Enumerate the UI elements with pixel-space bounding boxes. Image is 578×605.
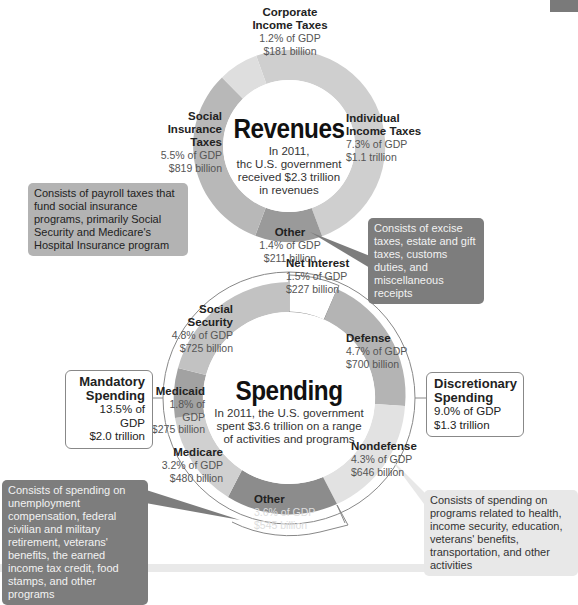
mandatory-title-line: Mandatory <box>73 375 145 389</box>
label-name-line: Social <box>140 110 222 123</box>
label-amount: $181 billion <box>240 45 340 58</box>
spending-center: Spending In 2011, the U.S. government sp… <box>214 376 364 446</box>
spending-subtitle-line: spent $3.6 trillion on a range <box>214 420 364 433</box>
discretionary-title-line: Spending <box>434 391 516 405</box>
label-name-line: Defense <box>346 332 426 345</box>
label-gdp: 3.6% of GDP <box>254 506 334 519</box>
spending-title: Spending <box>222 376 357 407</box>
revenues-center: Revenues In 2011, thc U.S. government re… <box>224 114 354 197</box>
label-amount: $646 billion <box>351 466 431 479</box>
label-gdp: 4.8% of GDP <box>170 329 233 342</box>
discretionary-gdp: 9.0% of GDP <box>434 405 516 419</box>
label-amount: $1.1 trillion <box>346 151 436 164</box>
label-net-interest: Net Interest 1.5% of GDP $227 billion <box>286 257 376 295</box>
label-gdp: 1.4% of GDP <box>255 239 325 252</box>
label-defense: Defense 4.7% of GDP $700 billion <box>346 332 426 370</box>
callout-spending-other: Consists of spending on unemployment com… <box>2 480 148 605</box>
mandatory-amount: $2.0 trillion <box>73 430 145 444</box>
label-name-line: Medicaid <box>150 385 205 398</box>
label-social-insurance-taxes: Social Insurance Taxes 5.5% of GDP $819 … <box>140 110 222 174</box>
label-name-line: Other <box>254 493 334 506</box>
label-name-line: Net Interest <box>286 257 376 270</box>
label-name-line: Income Taxes <box>346 125 436 138</box>
label-corporate-income-taxes: Corporate Income Taxes 1.2% of GDP $181 … <box>240 6 340 57</box>
label-amount: $545 billion <box>254 519 334 532</box>
label-medicaid: Medicaid 1.8% of GDP $275 billion <box>150 385 205 436</box>
mandatory-title-line: Spending <box>73 389 145 403</box>
label-amount: $227 billion <box>286 283 376 296</box>
label-gdp: 5.5% of GDP <box>140 149 222 162</box>
revenues-subtitle-line: thc U.S. government <box>224 158 354 171</box>
discretionary-title-line: Discretionary <box>434 377 516 391</box>
revenues-subtitle-line: In 2011, <box>224 145 354 158</box>
label-spending-other: Other 3.6% of GDP $545 billion <box>254 493 334 531</box>
label-gdp: 1.5% of GDP <box>286 270 376 283</box>
discretionary-amount: $1.3 trillion <box>434 419 516 433</box>
callout-social-insurance: Consists of payroll taxes that fund soci… <box>28 183 188 256</box>
label-name-line: Income Taxes <box>240 19 340 32</box>
label-amount: $725 billion <box>170 342 233 355</box>
label-amount: $700 billion <box>346 358 426 371</box>
label-gdp: 7.3% of GDP <box>346 138 436 151</box>
mandatory-spending-box: Mandatory Spending 13.5% of GDP $2.0 tri… <box>65 370 153 449</box>
callout-nondefense: Consists of spending on programs related… <box>424 490 578 576</box>
label-gdp: 3.2% of GDP <box>160 459 223 472</box>
spending-subtitle-line: of activities and programs <box>214 433 364 446</box>
label-name-line: Corporate <box>240 6 340 19</box>
mandatory-gdp: 13.5% of GDP <box>73 403 145 430</box>
label-name-line: Medicare <box>160 446 223 459</box>
label-amount: $275 billion <box>150 423 205 436</box>
revenues-title: Revenues <box>231 114 348 145</box>
label-name-line: Social <box>170 303 233 316</box>
discretionary-spending-box: Discretionary Spending 9.0% of GDP $1.3 … <box>426 372 524 437</box>
revenues-subtitle-line: received $2.3 trillion <box>224 171 354 184</box>
label-individual-income-taxes: Individual Income Taxes 7.3% of GDP $1.1… <box>346 112 436 163</box>
label-medicare: Medicare 3.2% of GDP $480 billion <box>160 446 223 484</box>
revenues-subtitle-line: in revenues <box>224 184 354 197</box>
label-gdp: 1.2% of GDP <box>240 32 340 45</box>
label-gdp: 4.7% of GDP <box>346 345 426 358</box>
label-social-security: Social Security 4.8% of GDP $725 billion <box>170 303 233 354</box>
label-amount: $480 billion <box>160 472 223 485</box>
callout-revenue-other: Consists of excise taxes, estate and gif… <box>368 218 484 304</box>
label-gdp: 4.3% of GDP <box>351 453 431 466</box>
label-amount: $819 billion <box>140 162 222 175</box>
spending-subtitle-line: In 2011, the U.S. government <box>214 407 364 420</box>
label-name-line: Other <box>255 226 325 239</box>
label-name-line: Individual <box>346 112 436 125</box>
label-name-line: Security <box>170 316 233 329</box>
label-name-line: Insurance Taxes <box>140 123 222 149</box>
label-gdp: 1.8% of GDP <box>150 398 205 423</box>
